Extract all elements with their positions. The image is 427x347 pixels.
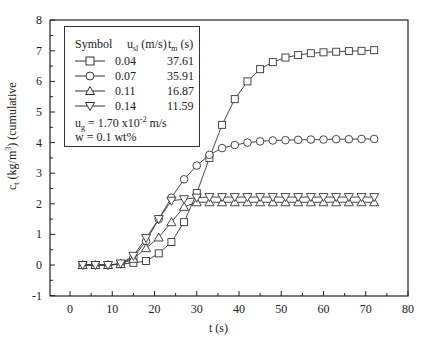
- triangle-down-marker-icon: [75, 100, 105, 112]
- svg-text:50: 50: [275, 302, 287, 316]
- svg-text:30: 30: [191, 302, 203, 316]
- svg-text:1: 1: [36, 227, 42, 241]
- y-axis-label: ct (kg/m3) (cumulative: [4, 82, 21, 190]
- legend-header-usl: usl (m/s): [127, 37, 167, 53]
- svg-text:7: 7: [36, 44, 42, 58]
- svg-text:2: 2: [36, 197, 42, 211]
- svg-text:0: 0: [67, 302, 73, 316]
- legend-tm-value: 11.59: [167, 99, 194, 114]
- legend: Symbol usl (m/s) tm (s) 0.04 37.61 0.07 …: [64, 26, 200, 147]
- legend-row: 0.04 37.61: [75, 54, 199, 68]
- legend-tm-value: 37.61: [167, 54, 194, 69]
- triangle-up-marker-icon: [75, 85, 105, 97]
- svg-text:40: 40: [233, 302, 245, 316]
- svg-text:0: 0: [36, 258, 42, 272]
- legend-usl-value: 0.04: [115, 54, 136, 69]
- legend-note-concentration: w = 0.1 wt%: [75, 130, 136, 145]
- square-marker-icon: [75, 55, 105, 67]
- svg-text:8: 8: [36, 13, 42, 27]
- circle-marker-icon: [75, 70, 105, 82]
- svg-text:5: 5: [36, 105, 42, 119]
- legend-usl-value: 0.14: [115, 99, 136, 114]
- legend-usl-value: 0.07: [115, 69, 136, 84]
- legend-header-tm: tm (s): [168, 37, 193, 53]
- legend-row: 0.14 11.59: [75, 99, 199, 113]
- x-axis-label: t (s): [209, 321, 228, 336]
- svg-text:-1: -1: [32, 289, 42, 303]
- svg-text:3: 3: [36, 166, 42, 180]
- svg-text:70: 70: [360, 302, 372, 316]
- legend-row: 0.11 16.87: [75, 84, 199, 98]
- svg-text:60: 60: [318, 302, 330, 316]
- legend-tm-value: 35.91: [167, 69, 194, 84]
- legend-header-symbol: Symbol: [75, 37, 112, 52]
- svg-text:80: 80: [402, 302, 414, 316]
- svg-text:4: 4: [36, 136, 42, 150]
- legend-row: 0.07 35.91: [75, 69, 199, 83]
- legend-usl-value: 0.11: [115, 84, 136, 99]
- svg-text:6: 6: [36, 74, 42, 88]
- svg-text:20: 20: [149, 302, 161, 316]
- svg-text:10: 10: [106, 302, 118, 316]
- legend-tm-value: 16.87: [167, 84, 194, 99]
